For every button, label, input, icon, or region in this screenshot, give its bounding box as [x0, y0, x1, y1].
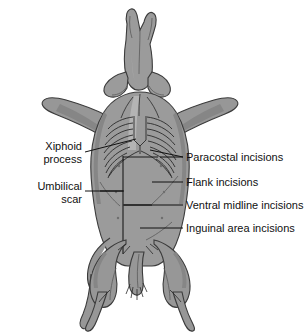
neck	[104, 72, 128, 97]
right-labels-group: Paracostal incisions Flank incisions Ven…	[186, 151, 304, 234]
nipple-2	[160, 165, 162, 167]
label-ventral-midline-incisions: Ventral midline incisions	[186, 199, 304, 211]
label-umbilical-scar-line2: scar	[61, 193, 82, 205]
nipple-4	[163, 191, 165, 193]
trunk-group	[91, 92, 190, 266]
label-inguinal-area-incisions: Inguinal area incisions	[186, 222, 295, 234]
nipple-5	[117, 217, 119, 219]
label-xiphoid-process-line1: Xiphoid	[45, 140, 82, 152]
left-labels-group: Xiphoid process Umbilical scar	[37, 140, 82, 205]
label-flank-incisions: Flank incisions	[186, 176, 259, 188]
anatomical-illustration: Xiphoid process Umbilical scar Paracosta…	[0, 0, 305, 333]
nipple-6	[161, 217, 163, 219]
label-paracostal-incisions: Paracostal incisions	[186, 151, 284, 163]
hindlimb-right-shank	[173, 292, 194, 331]
nipple-1	[118, 165, 120, 167]
label-umbilical-scar-line1: Umbilical	[37, 180, 82, 192]
label-xiphoid-process-line2: process	[43, 153, 82, 165]
incision-diagram-figure: Xiphoid process Umbilical scar Paracosta…	[0, 0, 305, 333]
tail-group	[118, 244, 158, 300]
